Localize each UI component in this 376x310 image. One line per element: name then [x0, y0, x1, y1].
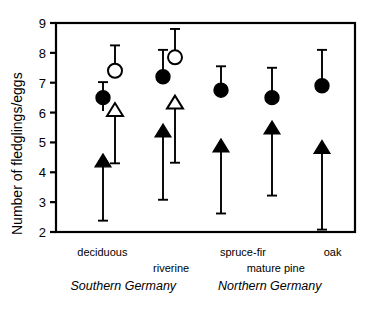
region-label-southern-germany: Southern Germany — [70, 279, 176, 293]
data-point-filled-circle — [96, 91, 110, 105]
y-tick-label: 3 — [39, 195, 46, 210]
data-point-open-circle — [108, 64, 122, 78]
plot-frame — [56, 23, 355, 232]
data-point-filled-circle — [214, 83, 228, 97]
y-tick-label: 9 — [39, 16, 46, 31]
data-point-filled-triangle — [213, 139, 229, 152]
data-marks-layer — [95, 29, 330, 230]
data-point-open-triangle — [107, 103, 123, 116]
data-point-filled-triangle — [95, 154, 111, 167]
x-axis-category-labels: deciduousriverinespruce-firmature pineoa… — [77, 246, 342, 274]
x-axis-label-spruce-fir: spruce-fir — [220, 246, 266, 258]
data-point-filled-circle — [315, 79, 329, 93]
data-point-filled-circle — [156, 70, 170, 84]
y-tick-label: 5 — [39, 135, 46, 150]
data-point-open-circle — [168, 50, 182, 64]
x-axis-label-riverine: riverine — [153, 262, 189, 274]
y-axis-title: Number of fledglings/eggs — [9, 72, 25, 235]
data-point-filled-triangle — [155, 124, 171, 137]
x-axis-label-mature-pine: mature pine — [247, 262, 305, 274]
y-tick-label: 8 — [39, 46, 46, 61]
x-axis-label-oak: oak — [324, 246, 342, 258]
x-axis-label-deciduous: deciduous — [77, 246, 128, 258]
x-axis-region-labels: Southern GermanyNorthern Germany — [70, 279, 322, 293]
figure-container: Number of fledglings/eggs 23456789 decid… — [0, 0, 376, 310]
y-axis-ticks: 23456789 — [39, 16, 56, 240]
data-point-filled-circle — [265, 91, 279, 105]
y-tick-label: 4 — [39, 165, 46, 180]
region-label-northern-germany: Northern Germany — [218, 279, 322, 293]
y-tick-label: 2 — [39, 225, 46, 240]
data-point-filled-triangle — [264, 121, 280, 134]
y-tick-label: 6 — [39, 106, 46, 121]
chart-canvas: Number of fledglings/eggs 23456789 decid… — [0, 0, 376, 310]
data-point-open-triangle — [167, 96, 183, 109]
data-point-filled-triangle — [314, 140, 330, 153]
y-tick-label: 7 — [39, 76, 46, 91]
